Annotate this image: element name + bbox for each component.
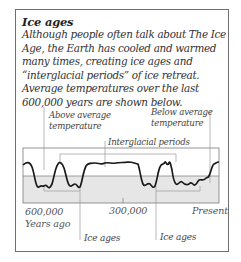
x-tick-600000: 600,000 Years ago: [25, 206, 70, 230]
label-interglacial-periods: Interglacial periods: [108, 137, 190, 148]
label-above-average: Above average temperature: [49, 110, 111, 131]
label-below-average: Below average temperature: [151, 107, 213, 128]
label-ice-ages-1: Ice ages: [84, 233, 120, 244]
x-tick-300000: 300,000: [109, 206, 147, 217]
x-tick-present: Present: [192, 206, 228, 217]
label-ice-ages-2: Ice ages: [160, 232, 196, 243]
interglacial-bracket: [60, 154, 176, 162]
